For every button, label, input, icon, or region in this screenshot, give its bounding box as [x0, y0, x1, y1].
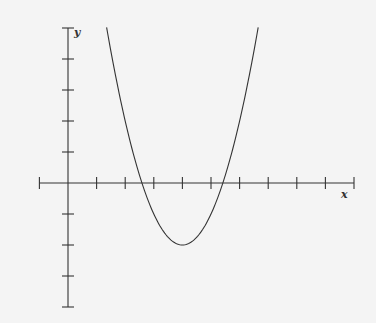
parabola-curve — [107, 27, 259, 245]
y-axis-label: y — [74, 26, 80, 39]
parabola-chart — [0, 0, 376, 323]
x-axis-label: x — [341, 188, 348, 201]
axes — [39, 28, 354, 307]
